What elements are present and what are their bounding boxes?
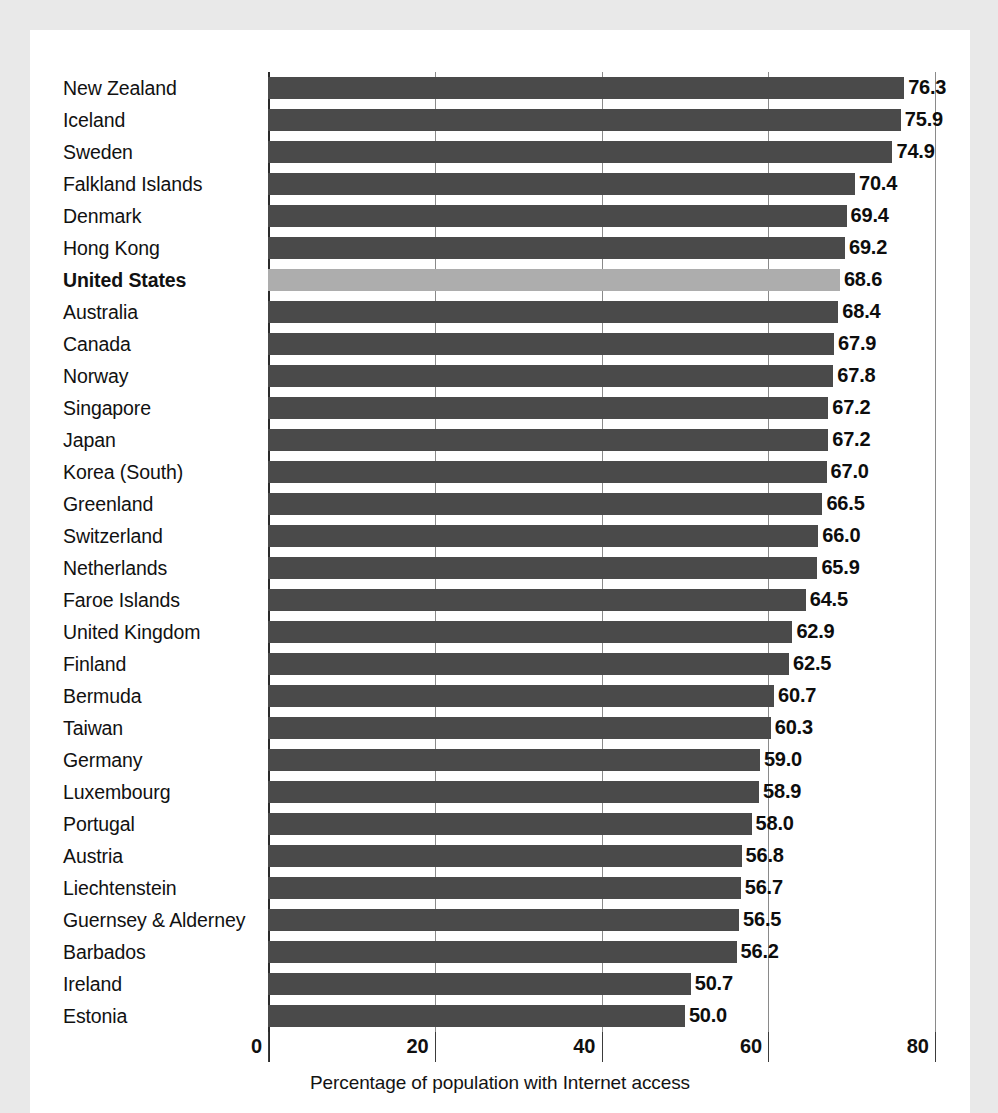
bar-category-label: New Zealand [63,72,268,104]
bar-category-label: Greenland [63,488,268,520]
bar-row: Germany59.0 [30,744,970,776]
bar-row: Korea (South)67.0 [30,456,970,488]
bar [268,813,752,835]
bar [268,301,838,323]
bar-row: Liechtenstein56.7 [30,872,970,904]
bar-value-label: 59.0 [764,744,802,776]
chart-panel: Percentage of population with Internet a… [30,30,970,1113]
bar-category-label: Sweden [63,136,268,168]
bar-value-label: 76.3 [908,72,946,104]
bar [268,173,855,195]
bar [268,365,833,387]
bar-value-label: 66.5 [826,488,864,520]
chart-page: Percentage of population with Internet a… [0,0,998,1113]
bar [268,845,742,867]
bar-row: Denmark69.4 [30,200,970,232]
bar-category-label: Iceland [63,104,268,136]
bar [268,205,847,227]
bar [268,621,792,643]
bar [268,717,771,739]
bar-value-label: 74.9 [896,136,934,168]
bar-row: Iceland75.9 [30,104,970,136]
bar-value-label: 60.7 [778,680,816,712]
bar-row: Falkland Islands70.4 [30,168,970,200]
bar-row: Japan67.2 [30,424,970,456]
bar-row: Austria56.8 [30,840,970,872]
bar-row: Norway67.8 [30,360,970,392]
bar-value-label: 62.5 [793,648,831,680]
bar-row: Hong Kong69.2 [30,232,970,264]
bar-value-label: 58.9 [763,776,801,808]
bar-category-label: Canada [63,328,268,360]
bar [268,109,901,131]
bar [268,781,759,803]
bar [268,749,760,771]
bar [268,429,828,451]
bar-category-label: Finland [63,648,268,680]
bar-category-label: Estonia [63,1000,268,1032]
x-tick-40 [602,1032,603,1062]
bar-row: United Kingdom62.9 [30,616,970,648]
bar [268,77,904,99]
bar [268,141,892,163]
bar-row: Australia68.4 [30,296,970,328]
bar-row: Guernsey & Alderney56.5 [30,904,970,936]
bar-category-label: Japan [63,424,268,456]
bar-value-label: 60.3 [775,712,813,744]
bar-category-label: Switzerland [63,520,268,552]
bar-row: Luxembourg58.9 [30,776,970,808]
bar [268,525,818,547]
bar [268,269,840,291]
bar-category-label: Netherlands [63,552,268,584]
bar-value-label: 56.8 [746,840,784,872]
bar-value-label: 62.9 [796,616,834,648]
bar-value-label: 67.2 [832,392,870,424]
bar-value-label: 56.2 [741,936,779,968]
bar-row: United States68.6 [30,264,970,296]
x-tick-label-0: 0 [202,1035,262,1058]
bar-row: Canada67.9 [30,328,970,360]
bar-value-label: 69.2 [849,232,887,264]
x-tick-label-60: 60 [702,1035,762,1058]
bar-value-label: 68.4 [842,296,880,328]
bar-value-label: 67.9 [838,328,876,360]
bar-value-label: 66.0 [822,520,860,552]
bar-value-label: 56.5 [743,904,781,936]
bar-row: Taiwan60.3 [30,712,970,744]
bar-value-label: 56.7 [745,872,783,904]
bar-row: Switzerland66.0 [30,520,970,552]
bar [268,941,737,963]
bar-category-label: Denmark [63,200,268,232]
bar-value-label: 58.0 [756,808,794,840]
bar [268,461,827,483]
x-tick-label-40: 40 [536,1035,596,1058]
bar-row: Estonia50.0 [30,1000,970,1032]
bar-value-label: 50.0 [689,1000,727,1032]
bar-category-label: Bermuda [63,680,268,712]
bar [268,237,845,259]
bar-category-label: United Kingdom [63,616,268,648]
x-axis-label: Percentage of population with Internet a… [30,1072,970,1094]
bar-value-label: 75.9 [905,104,943,136]
bar [268,685,774,707]
x-tick-80 [935,1032,936,1062]
bar-chart: Percentage of population with Internet a… [30,30,970,1113]
bar-row: Bermuda60.7 [30,680,970,712]
bar-value-label: 65.9 [821,552,859,584]
x-tick-label-80: 80 [869,1035,929,1058]
bar [268,333,834,355]
bar-category-label: Barbados [63,936,268,968]
bar-category-label: Taiwan [63,712,268,744]
bar-category-label: Guernsey & Alderney [63,904,268,936]
bar-row: Portugal58.0 [30,808,970,840]
bar [268,973,691,995]
bar-row: Singapore67.2 [30,392,970,424]
bar-category-label: Norway [63,360,268,392]
bar-row: Faroe Islands64.5 [30,584,970,616]
x-tick-20 [435,1032,436,1062]
bar-category-label: Falkland Islands [63,168,268,200]
bar-category-label: Liechtenstein [63,872,268,904]
bar-category-label: Australia [63,296,268,328]
bar [268,557,817,579]
bar-category-label: Singapore [63,392,268,424]
